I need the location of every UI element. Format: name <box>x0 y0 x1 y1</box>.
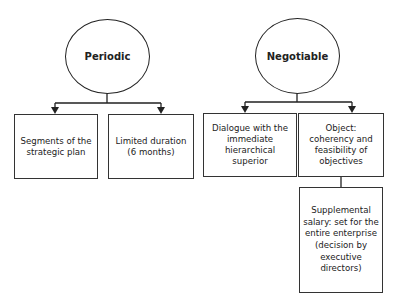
node-periodic: Periodic <box>65 19 150 94</box>
node-limited-duration: Limited duration (6 months) <box>108 114 194 179</box>
node-dialogue-superior: Dialogue with the immediate hierarchical… <box>203 113 297 177</box>
node-negotiable: Negotiable <box>255 18 340 94</box>
node-segments-of-strategic-plan: Segments of the strategic plan <box>14 114 98 179</box>
node-object-coherency: Object: coherency and feasibility of obj… <box>298 113 384 177</box>
node-supplemental-salary: Supplemental salary: set for the entire … <box>299 187 383 293</box>
